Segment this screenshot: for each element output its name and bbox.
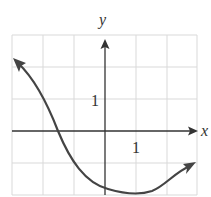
chart: x y 1 1 [0,0,211,197]
x-tick-label: 1 [132,139,140,156]
y-tick-label: 1 [91,92,99,109]
y-axis [101,39,110,195]
y-axis-label: y [97,11,107,29]
x-axis-label: x [200,122,208,139]
